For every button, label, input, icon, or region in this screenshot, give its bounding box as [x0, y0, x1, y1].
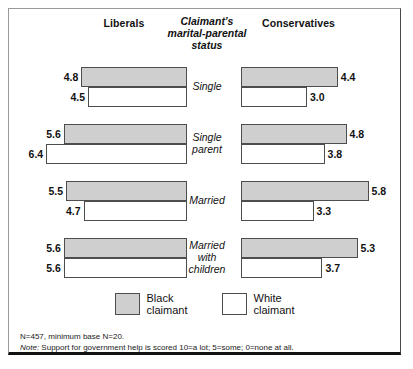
bar-value-label: 3.0: [310, 87, 325, 107]
legend-item-white-claimant: White claimant: [222, 292, 295, 317]
bar-value-label: 4.4: [341, 67, 356, 87]
legend-label-white: White claimant: [254, 292, 295, 317]
bar-white-claimant: [84, 201, 187, 221]
bar-value-label: 6.4: [29, 144, 44, 164]
legend-black-line2: claimant: [147, 304, 188, 316]
footnotes: N=457, minimum base N=20. Note: Support …: [20, 331, 380, 353]
bar-black-claimant: [241, 181, 369, 201]
bar-black-claimant: [241, 238, 358, 258]
chart-row: Married5.54.75.83.3: [9, 175, 400, 227]
bar-value-label: 3.3: [317, 201, 332, 221]
bar-value-label: 4.7: [66, 201, 81, 221]
claimant-status-line-2: marital-parental: [157, 28, 257, 40]
bar-value-label: 5.6: [46, 238, 61, 258]
bar-white-claimant: [241, 201, 314, 221]
bar-black-claimant: [81, 67, 187, 87]
bar-value-label: 3.7: [325, 258, 340, 278]
legend: Black claimant White claimant: [9, 292, 400, 317]
footnote-note: Note: Support for government help is sco…: [20, 342, 380, 353]
legend-white-line2: claimant: [254, 304, 295, 316]
footnote-note-prefix: Note:: [20, 343, 39, 352]
bar-white-claimant: [64, 258, 187, 278]
legend-swatch-white: [222, 293, 247, 315]
bar-value-label: 5.8: [372, 181, 387, 201]
chart-row: Singleparent5.66.44.83.8: [9, 118, 400, 170]
bar-white-claimant: [241, 258, 322, 278]
bar-black-claimant: [64, 238, 187, 258]
bar-black-claimant: [241, 67, 338, 87]
claimant-status-line-3: status: [157, 40, 257, 52]
legend-item-black-claimant: Black claimant: [115, 292, 188, 317]
bars-conservatives: 4.83.8: [241, 124, 347, 164]
bars-conservatives: 4.43.0: [241, 67, 338, 107]
bar-value-label: 5.6: [46, 124, 61, 144]
bar-black-claimant: [64, 124, 187, 144]
bar-value-label: 3.8: [328, 144, 343, 164]
legend-label-black: Black claimant: [147, 292, 188, 317]
chart-panel: Liberals Claimant’s marital-parental sta…: [8, 8, 401, 355]
bar-black-claimant: [66, 181, 187, 201]
bar-black-claimant: [241, 124, 347, 144]
bars-conservatives: 5.83.3: [241, 181, 369, 221]
bar-white-claimant: [241, 87, 307, 107]
bar-value-label: 5.3: [361, 238, 376, 258]
legend-black-line1: Black: [147, 292, 188, 304]
bars-liberals: 5.65.6: [64, 238, 187, 278]
bars-liberals: 4.84.5: [81, 67, 187, 107]
bar-value-label: 5.5: [48, 181, 63, 201]
bar-value-label: 4.5: [70, 87, 85, 107]
bar-white-claimant: [46, 144, 187, 164]
bar-value-label: 4.8: [64, 67, 79, 87]
bar-white-claimant: [241, 144, 325, 164]
bar-white-claimant: [88, 87, 187, 107]
bars-liberals: 5.54.7: [66, 181, 187, 221]
bars-conservatives: 5.33.7: [241, 238, 358, 278]
bar-value-label: 5.6: [46, 258, 61, 278]
legend-white-line1: White: [254, 292, 295, 304]
footnote-base: N=457, minimum base N=20.: [20, 331, 380, 342]
chart-row: Single4.84.54.43.0: [9, 61, 400, 113]
column-header-conservatives: Conservatives: [231, 17, 366, 29]
bars-liberals: 5.66.4: [46, 124, 187, 164]
legend-swatch-black: [115, 293, 140, 315]
footnote-note-text: Support for government help is scored 10…: [39, 343, 294, 352]
bar-value-label: 4.8: [350, 124, 365, 144]
chart-row: Marriedwithchildren5.65.65.33.7: [9, 232, 400, 284]
